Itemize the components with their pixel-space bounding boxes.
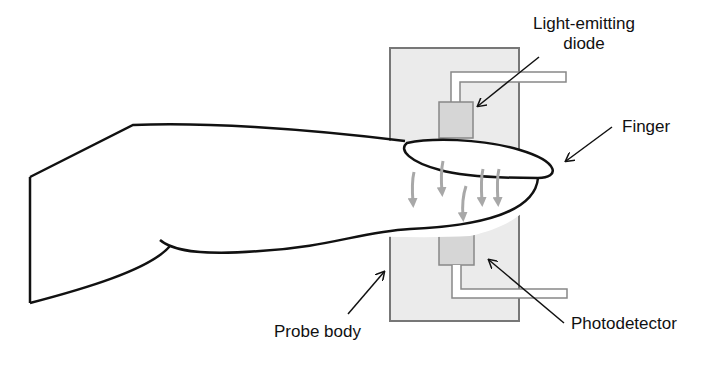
light-arrow-icon (497, 169, 499, 202)
pulse-oximeter-diagram: Light-emitting diode Finger Probe body P… (0, 0, 724, 366)
diagram-canvas (0, 0, 724, 366)
probe-body-label: Probe body (274, 322, 361, 342)
led-label-line1: Light-emitting (514, 14, 654, 34)
finger-label: Finger (622, 117, 670, 137)
photodetector-label: Photodetector (571, 314, 677, 334)
finger-pointer-arrow (566, 127, 612, 161)
light-arrow-icon (441, 161, 443, 192)
light-arrow-icon (412, 172, 414, 203)
light-arrow-icon (481, 169, 483, 202)
probe-body-pointer-arrow (348, 272, 384, 314)
led-label: Light-emitting diode (514, 14, 654, 54)
led-component (439, 102, 473, 138)
led-label-line2: diode (514, 34, 654, 54)
